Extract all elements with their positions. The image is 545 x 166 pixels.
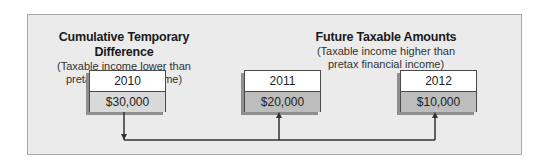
- arrow-up-icon: [276, 112, 282, 118]
- connector-arrows: [0, 0, 545, 166]
- arrow-up-icon: [432, 112, 438, 118]
- arrow-down-icon: [121, 134, 127, 140]
